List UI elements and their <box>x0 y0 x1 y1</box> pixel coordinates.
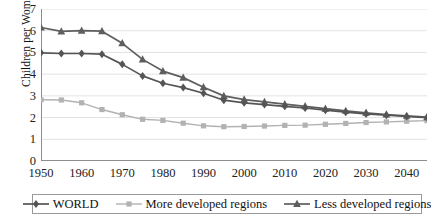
x-tick-label: 2020 <box>313 166 338 181</box>
data-point-marker <box>262 123 267 128</box>
data-point-marker <box>99 107 104 112</box>
x-tick-label: 1980 <box>150 166 175 181</box>
data-point-marker <box>118 39 126 46</box>
data-point-marker <box>343 108 349 116</box>
data-point-marker <box>384 119 389 124</box>
x-tick-label: 2010 <box>272 166 297 181</box>
y-tick-label: 3 <box>30 90 36 103</box>
y-tick-label: 4 <box>30 68 36 81</box>
series-less-developed-regions <box>41 23 427 120</box>
x-tick-label: 1990 <box>191 166 216 181</box>
legend-label: Less developed regions <box>314 197 431 212</box>
data-point-marker <box>322 106 328 114</box>
x-tick-label: 2000 <box>232 166 257 181</box>
data-point-marker <box>120 112 125 117</box>
data-point-marker <box>41 49 44 57</box>
y-tick-label: 5 <box>30 46 36 59</box>
y-axis-tick-labels: 01234567 <box>0 0 36 220</box>
data-point-marker <box>79 50 85 58</box>
x-tick-label: 1950 <box>29 166 54 181</box>
data-point-marker <box>343 121 348 126</box>
data-point-marker <box>119 60 125 68</box>
data-point-marker <box>242 124 247 129</box>
y-tick-label: 2 <box>30 111 36 124</box>
x-tick-label: 1960 <box>69 166 94 181</box>
data-point-marker <box>363 120 368 125</box>
data-point-marker <box>41 97 44 102</box>
series-line <box>41 27 427 117</box>
data-point-marker <box>58 50 64 58</box>
x-tick-label: 1970 <box>110 166 135 181</box>
data-point-marker <box>79 100 84 105</box>
data-point-marker <box>181 121 186 126</box>
legend-entry-more-developed-regions[interactable]: More developed regions <box>116 197 268 212</box>
data-point-marker <box>160 118 165 123</box>
data-point-marker <box>323 122 328 127</box>
legend-marker-triangle-icon <box>284 198 310 210</box>
legend-marker-square-icon <box>116 198 142 210</box>
legend-entry-world[interactable]: WORLD <box>23 197 99 212</box>
data-point-marker <box>221 124 226 129</box>
data-point-marker <box>126 201 131 206</box>
data-point-marker <box>33 200 39 208</box>
data-point-marker <box>303 123 308 128</box>
y-tick-label: 7 <box>30 3 36 16</box>
data-point-marker <box>140 117 145 122</box>
data-point-marker <box>99 50 105 58</box>
legend-entry-less-developed-regions[interactable]: Less developed regions <box>284 197 431 212</box>
y-tick-label: 6 <box>30 24 36 37</box>
legend-label: More developed regions <box>146 197 268 212</box>
data-point-marker <box>160 79 166 87</box>
plot-area <box>41 9 427 161</box>
y-tick-label: 1 <box>30 133 36 146</box>
series-world <box>41 49 427 122</box>
data-point-marker <box>180 84 186 92</box>
data-point-marker <box>59 97 64 102</box>
data-point-marker <box>201 123 206 128</box>
x-tick-label: 2030 <box>354 166 379 181</box>
data-point-marker <box>139 72 145 80</box>
legend-label: WORLD <box>53 197 99 212</box>
legend-marker-diamond-icon <box>23 198 49 210</box>
data-point-marker <box>282 123 287 128</box>
x-tick-label: 2040 <box>394 166 419 181</box>
chart-legend: WORLDMore developed regionsLess develope… <box>32 194 422 214</box>
data-point-marker <box>363 110 369 118</box>
